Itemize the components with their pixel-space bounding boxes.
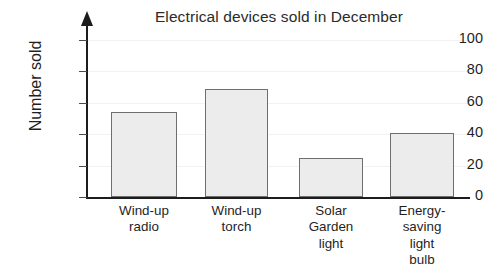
y-tick-mark	[79, 166, 87, 167]
y-tick-label: 0	[409, 187, 483, 203]
y-tick-mark	[79, 134, 87, 135]
category-label-line: light	[374, 236, 470, 252]
y-tick-label: 40	[409, 124, 483, 140]
x-axis-category-label: SolarGardenlight	[283, 203, 379, 252]
category-label-line: torch	[189, 219, 285, 235]
y-tick-mark	[79, 40, 87, 41]
category-label-line: Solar	[283, 203, 379, 219]
category-label-line: light	[283, 236, 379, 252]
category-label-line: saving	[374, 219, 470, 235]
x-axis-category-label: Wind-upradio	[96, 203, 192, 236]
y-tick-mark	[79, 71, 87, 72]
y-axis-line	[86, 24, 88, 199]
chart-title: Electrical devices sold in December	[88, 8, 470, 26]
category-label-line: bulb	[374, 252, 470, 268]
bar	[205, 89, 268, 197]
category-label-line: Wind-up	[96, 203, 192, 219]
bar	[299, 158, 363, 197]
category-label-line: radio	[96, 219, 192, 235]
x-axis-category-label: Energy-savinglightbulb	[374, 203, 470, 269]
bar	[111, 112, 177, 197]
category-label-line: Wind-up	[189, 203, 285, 219]
y-tick-mark	[79, 197, 87, 198]
category-label-line: Energy-	[374, 203, 470, 219]
y-tick-label: 20	[409, 156, 483, 172]
y-axis-arrow-icon	[81, 11, 93, 26]
category-label-line: Garden	[283, 219, 379, 235]
y-axis-title: Number sold	[27, 12, 45, 160]
y-tick-label: 80	[409, 61, 483, 77]
x-axis-category-label: Wind-uptorch	[189, 203, 285, 236]
y-tick-mark	[79, 103, 87, 104]
y-tick-label: 100	[409, 30, 483, 46]
bar-chart-figure: Electrical devices sold in December Numb…	[0, 0, 483, 277]
y-tick-label: 60	[409, 93, 483, 109]
